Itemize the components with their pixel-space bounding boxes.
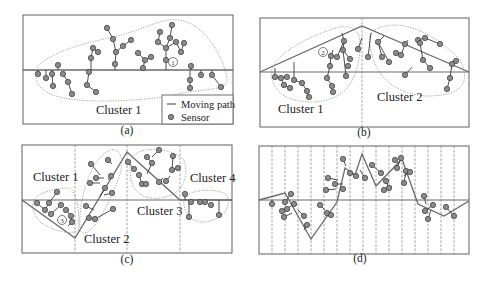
sensor-node (197, 199, 202, 204)
sensor-node (110, 36, 115, 41)
sensor-node (170, 153, 175, 158)
sensor-node (402, 72, 407, 77)
sensor-node (112, 61, 117, 66)
sensor-node (306, 94, 311, 99)
sensor-node (355, 46, 360, 51)
panel-caption: (c) (121, 253, 134, 266)
sensor-node (155, 39, 160, 44)
sensor-node (345, 63, 350, 68)
sensor-node (381, 187, 386, 192)
sensor-node (84, 82, 89, 87)
sensor-node (386, 59, 391, 64)
sensor-node (369, 162, 374, 167)
sensor-node (365, 54, 370, 59)
sensor-node (49, 71, 54, 76)
sensor-node (328, 212, 333, 217)
sensor-node (420, 57, 425, 62)
sensor-node (63, 207, 68, 212)
sensor-node (173, 39, 178, 44)
cluster-label: Cluster 4 (190, 171, 236, 185)
sensor-node (347, 170, 352, 175)
sensor-node (43, 75, 48, 80)
sensor-node (334, 54, 339, 59)
sensor-node (93, 175, 98, 180)
sensor-node (169, 167, 174, 172)
sensor-node (278, 75, 283, 80)
sensor-node (444, 86, 449, 91)
sensor-node (90, 45, 95, 50)
sensor-node (187, 77, 192, 82)
sensor-node (375, 39, 380, 44)
sensor-node (187, 85, 192, 90)
sensor-node (272, 74, 277, 79)
sensor-node (46, 200, 51, 205)
sensor-node (427, 65, 432, 70)
sensor-node (443, 204, 448, 209)
sensor-node (92, 216, 97, 221)
sensor-node (131, 166, 136, 171)
sensor-node (323, 187, 328, 192)
sensor-node (325, 175, 330, 180)
sensor-node (304, 88, 309, 93)
sensor-node (83, 203, 88, 208)
sensor-node (88, 55, 93, 60)
sensor-node (156, 179, 161, 184)
sensor-node (128, 37, 133, 42)
panel-b: 2Cluster 1Cluster 2(b) (260, 18, 469, 139)
sensor-node (102, 185, 107, 190)
sensor-node (156, 147, 161, 152)
sensor-node (142, 57, 147, 62)
sensor-node (392, 157, 397, 162)
sensor-node (175, 165, 180, 170)
sensor-node (105, 157, 110, 162)
sensor-node (402, 41, 407, 46)
sensor-node (324, 75, 329, 80)
sensor-node (216, 212, 221, 217)
sensor-node (181, 40, 186, 45)
sensor-node (163, 45, 168, 50)
sensor-node (383, 178, 388, 183)
sensor-node (284, 74, 289, 79)
legend-label: Sensor (181, 112, 210, 123)
sensor-node (393, 50, 398, 55)
sensor-node (69, 219, 74, 224)
sensor-node (209, 72, 214, 77)
sensor-node (198, 72, 203, 77)
sensor-node (50, 83, 55, 88)
sensor-node (453, 58, 458, 63)
sensor-node (125, 159, 130, 164)
panel-caption: (d) (353, 252, 367, 265)
sensor-node (281, 82, 286, 87)
sensor-node (135, 50, 140, 55)
sensor-node (208, 202, 213, 207)
sensor-node (362, 175, 367, 180)
cluster-label: Cluster 2 (84, 232, 129, 246)
sensor-node (299, 80, 304, 85)
cluster-outline (35, 20, 227, 101)
sensor-node (178, 49, 183, 54)
legend-sensor-icon (168, 114, 173, 119)
sensor-node (379, 54, 384, 59)
sensor-node (157, 29, 162, 34)
cluster-label: Cluster 1 (33, 170, 78, 184)
sensor-node (301, 213, 306, 218)
sensor-node (143, 181, 148, 186)
sensor-node (422, 35, 427, 40)
sensor-node (422, 208, 427, 213)
sensor-node (329, 83, 334, 88)
sensor-link (95, 209, 113, 219)
sensor-node (182, 191, 187, 196)
sensor-node (332, 181, 337, 186)
sensor-node (188, 63, 193, 68)
sensor-node (144, 154, 149, 159)
sensor-node (68, 213, 73, 218)
sensor-node (378, 170, 383, 175)
sensor-node (340, 47, 345, 52)
sensor-node (163, 178, 168, 183)
sensor-node (54, 189, 59, 194)
panel-a: 1Cluster 1Moving pathSensor(a) (23, 15, 236, 137)
sensor-node (279, 208, 284, 213)
sensor-node (284, 206, 289, 211)
panel-c: 3Cluster 1Cluster 2Cluster 3Cluster 4(c) (22, 145, 236, 266)
sensor-node (140, 65, 145, 70)
